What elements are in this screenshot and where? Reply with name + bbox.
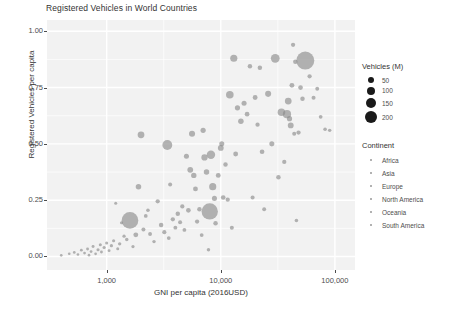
continent-legend-item[interactable]: Oceania <box>362 206 448 219</box>
data-point <box>191 173 196 178</box>
size-legend-bubble-icon <box>362 87 380 95</box>
data-point <box>90 250 93 253</box>
data-point <box>110 244 113 247</box>
data-point <box>96 248 99 251</box>
data-point <box>258 66 262 70</box>
data-point <box>200 233 204 237</box>
continent-legend-dot-icon <box>362 211 380 214</box>
data-point <box>221 195 226 200</box>
data-point <box>99 243 102 246</box>
data-point <box>323 127 327 131</box>
y-tick-label: 0.25 <box>9 195 43 204</box>
continent-legend-dot-icon <box>362 185 380 188</box>
data-point <box>262 207 266 211</box>
size-legend-item[interactable]: 50 <box>362 75 448 85</box>
data-point <box>201 154 207 160</box>
data-point <box>265 91 271 97</box>
data-point <box>167 236 171 240</box>
continent-legend-rows: AfricaAsiaEuropeNorth AmericaOceaniaSout… <box>362 154 448 232</box>
data-point <box>148 232 152 236</box>
data-point <box>122 235 125 238</box>
data-point <box>209 183 216 190</box>
data-point <box>141 227 145 231</box>
data-point <box>168 182 172 186</box>
data-point <box>108 249 111 252</box>
data-point <box>296 52 314 70</box>
continent-legend-label: South America <box>380 222 424 229</box>
size-legend-bubble-icon <box>362 98 380 108</box>
data-point <box>295 219 299 223</box>
data-point <box>88 254 91 257</box>
data-point <box>319 115 323 119</box>
data-point <box>276 175 280 179</box>
data-point <box>186 208 191 213</box>
data-point <box>253 95 258 100</box>
y-tick-label: 0.00 <box>9 251 43 260</box>
data-point <box>269 141 274 146</box>
data-point <box>116 247 119 250</box>
data-point <box>285 98 292 105</box>
data-point <box>287 116 292 121</box>
size-legend-label: 150 <box>380 100 393 107</box>
size-legend-title: Vehicles (M) <box>362 62 448 71</box>
continent-legend-item[interactable]: Asia <box>362 167 448 180</box>
data-point <box>312 96 316 100</box>
data-point <box>233 152 238 157</box>
continent-legend-label: North America <box>380 196 423 203</box>
size-legend-bubble-icon <box>362 77 380 83</box>
size-legend-item[interactable]: 150 <box>362 97 448 110</box>
data-point <box>260 149 265 154</box>
data-point <box>144 214 148 218</box>
data-point <box>216 173 221 178</box>
data-point <box>159 223 163 227</box>
data-point <box>219 141 224 146</box>
data-point <box>178 220 182 224</box>
data-point <box>255 123 259 127</box>
data-point <box>315 87 319 91</box>
data-point <box>152 240 155 243</box>
size-legend-label: 50 <box>380 77 389 84</box>
continent-legend-dot-icon <box>362 224 380 227</box>
data-point <box>80 249 83 252</box>
size-legend-label: 200 <box>380 114 393 121</box>
data-point <box>138 131 145 138</box>
size-legend-item[interactable]: 100 <box>362 85 448 97</box>
data-point <box>103 246 106 249</box>
data-point <box>207 248 210 251</box>
data-point <box>133 232 138 237</box>
size-legend-bubble-icon <box>362 111 380 123</box>
data-point <box>77 253 80 256</box>
continent-legend-label: Europe <box>380 183 403 190</box>
data-point <box>162 140 172 150</box>
data-point <box>171 217 175 221</box>
continent-legend-label: Asia <box>380 170 395 177</box>
size-legend-item[interactable]: 200 <box>362 110 448 125</box>
y-tick-mark <box>44 144 47 145</box>
data-point <box>235 105 240 110</box>
data-point <box>201 128 206 133</box>
data-point <box>189 131 195 137</box>
continent-legend-item[interactable]: South America <box>362 219 448 232</box>
data-point <box>131 245 134 248</box>
data-point <box>68 252 71 255</box>
data-point <box>86 248 89 251</box>
data-point <box>248 64 252 68</box>
continent-legend-item[interactable]: North America <box>362 193 448 206</box>
data-point <box>136 184 142 190</box>
data-point <box>197 207 201 211</box>
y-tick-mark <box>44 200 47 201</box>
data-point <box>118 242 121 245</box>
x-tick-mark <box>221 270 222 273</box>
continent-legend-item[interactable]: Africa <box>362 154 448 167</box>
data-point <box>245 112 250 117</box>
data-point <box>307 74 311 78</box>
chart-title: Registered Vehicles in World Countries <box>46 3 197 13</box>
size-legend-label: 100 <box>380 87 393 94</box>
data-point <box>230 226 234 230</box>
y-tick-mark <box>44 31 47 32</box>
data-points-layer <box>60 43 331 257</box>
continent-legend-item[interactable]: Europe <box>362 180 448 193</box>
continent-legend-dot-icon <box>362 159 380 162</box>
data-point <box>298 85 303 90</box>
y-tick-mark <box>44 88 47 89</box>
